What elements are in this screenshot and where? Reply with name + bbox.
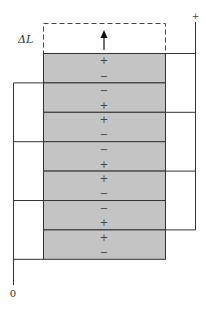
- layer-1-bottom-sign: −: [100, 71, 108, 82]
- layer-5-top-sign: +: [100, 173, 108, 184]
- positive-bus-wire: [166, 22, 196, 230]
- layer-2-bottom-sign: +: [100, 100, 108, 111]
- layer-3-bottom-sign: −: [100, 129, 108, 140]
- layer-6-top-sign: −: [100, 203, 108, 214]
- ground-bus-wire: [14, 83, 44, 285]
- layer-1-top-sign: +: [100, 55, 108, 66]
- layer-4-bottom-sign: +: [100, 159, 108, 170]
- layer-7-top-sign: +: [100, 232, 108, 243]
- delta-l-label: ΔL: [17, 33, 33, 46]
- arrow-up-icon: [101, 30, 108, 50]
- layer-5-bottom-sign: −: [100, 188, 108, 199]
- ground-terminal-label: 0: [10, 288, 16, 299]
- layer-7-bottom-sign: −: [100, 247, 108, 258]
- positive-terminal-label: +: [192, 11, 200, 21]
- layer-4-top-sign: −: [100, 144, 108, 155]
- layer-3-top-sign: +: [100, 114, 108, 125]
- layer-6-bottom-sign: +: [100, 217, 108, 228]
- stack-actuator-diagram: ΔL + − − + + − − + + − − + + − 0: [0, 0, 206, 310]
- layer-2-top-sign: −: [100, 85, 108, 96]
